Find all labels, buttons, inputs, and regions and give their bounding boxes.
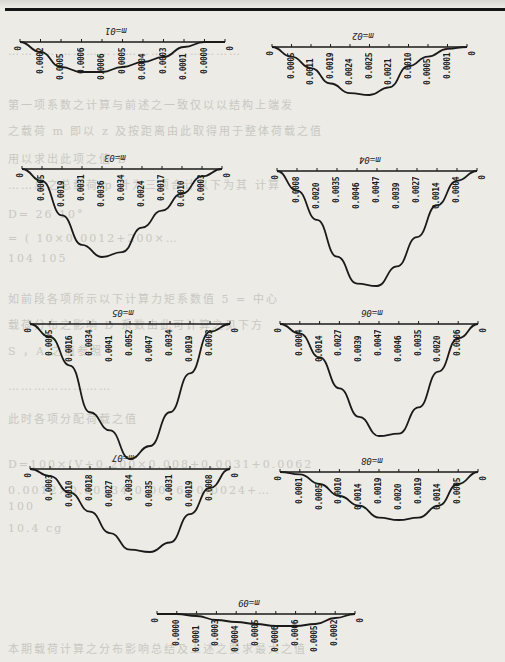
ordinate-value-label: 0.0005 [453, 478, 462, 504]
ordinate-value-label: 0.0003 [197, 175, 206, 201]
ordinate-value-label: 0.0019 [326, 53, 335, 79]
ordinate-value-label: 0.0010 [334, 478, 343, 504]
ordinate-value-label: 0.0035 [145, 481, 154, 507]
ordinate-value-label: 0.0014 [432, 183, 441, 209]
ordinate-value-label: 0.0021 [384, 59, 393, 85]
ordinate-value-label: 0.0000 [200, 48, 209, 74]
ordinate-value-label: 0.0005 [423, 59, 432, 85]
ordinate-value-label: 0.0027 [334, 330, 343, 356]
ordinate-value-label: 0.0019 [414, 478, 423, 504]
end-zero-label: 0 [229, 473, 238, 478]
ordinate-value-label: 0.0027 [105, 481, 114, 507]
ordinate-value-label: 0.0046 [394, 336, 403, 362]
ordinate-value-label: 0.0039 [392, 183, 401, 209]
ordinate-value-label: 0.0011 [306, 59, 315, 85]
ordinate-value-label: 0.0019 [185, 336, 194, 362]
ordinate-value-label: 0.0001 [295, 478, 304, 504]
ordinate-value-label: 0.0000 [172, 620, 181, 646]
end-zero-label: 0 [14, 173, 23, 178]
ordinate-value-label: 0.0006 [453, 330, 462, 356]
header-rule [5, 8, 505, 11]
ordinate-value-label: 0.0019 [374, 478, 383, 504]
ordinate-value-label: 0.0005 [287, 53, 296, 79]
influence-diagram-m-07: m=07000.00030.00100.00180.00270.00340.00… [30, 455, 230, 598]
influence-diagram-m-03: m=03000.00050.00190.00310.00360.00340.00… [22, 155, 222, 303]
ordinate-value-label: 0.0014 [354, 484, 363, 510]
ordinate-value-label: 0.0008 [292, 177, 301, 203]
ordinate-value-label: 0.0025 [365, 53, 374, 79]
ordinate-value-label: 0.0002 [330, 620, 339, 646]
ordinate-value-label: 0.0047 [372, 177, 381, 203]
ordinate-value-label: 0.0034 [125, 475, 134, 501]
ordinate-value-label: 0.0005 [56, 54, 65, 80]
ordinate-value-label: 0.0005 [251, 620, 260, 646]
ordinate-value-label: 0.0003 [159, 48, 168, 74]
ordinate-value-label: 0.0004 [231, 626, 240, 652]
ordinate-value-label: 0.0010 [65, 481, 74, 507]
scan-top-edge [0, 0, 505, 8]
ordinate-value-label: 0.0005 [37, 175, 46, 201]
ordinate-value-label: 0.0008 [205, 475, 214, 501]
end-zero-label: 0 [149, 618, 158, 623]
end-zero-label: 0 [354, 618, 363, 623]
ordinate-value-label: 0.0014 [315, 336, 324, 362]
end-zero-label: 0 [12, 46, 21, 51]
ordinate-value-label: 0.0004 [138, 54, 147, 80]
ordinate-value-label: 0.0014 [433, 484, 442, 510]
end-zero-label: 0 [272, 476, 281, 481]
ordinate-value-label: 0.0046 [352, 183, 361, 209]
end-zero-label: 0 [272, 328, 281, 333]
ordinate-value-label: 0.0004 [452, 177, 461, 203]
ordinate-value-label: 0.0019 [185, 481, 194, 507]
ordinate-value-label: 0.0052 [125, 330, 134, 356]
ordinate-value-label: 0.0006 [77, 48, 86, 74]
ordinate-value-label: 0.0004 [295, 330, 304, 356]
ordinate-value-label: 0.0034 [165, 330, 174, 356]
ordinate-value-label: 0.0041 [105, 336, 114, 362]
ordinate-value-label: 0.0018 [85, 475, 94, 501]
ordinate-value-label: 0.0003 [205, 330, 214, 356]
ordinate-value-label: 0.0002 [36, 48, 45, 74]
ordinate-value-label: 0.0024 [345, 59, 354, 85]
ordinate-value-label: 0.0034 [117, 175, 126, 201]
ordinate-value-label: 0.0005 [315, 484, 324, 510]
end-zero-label: 0 [264, 51, 273, 56]
ordinate-value-label: 0.0006 [97, 54, 106, 80]
end-zero-label: 0 [224, 46, 233, 51]
ordinate-value-label: 0.0020 [312, 183, 321, 209]
influence-diagram-m-09: m=09000.00000.00010.00030.00040.00050.00… [157, 600, 355, 662]
end-zero-label: 0 [477, 328, 486, 333]
ordinate-value-label: 0.0010 [404, 53, 413, 79]
ordinate-value-label: 0.0001 [192, 626, 201, 652]
end-zero-label: 0 [269, 175, 278, 180]
influence-diagram-m-01: m=01000.00020.00050.00060.00060.00050.00… [20, 28, 225, 118]
ordinate-value-label: 0.0027 [412, 177, 421, 203]
ordinate-value-label: 0.0005 [45, 330, 54, 356]
ordinate-value-label: 0.0010 [177, 181, 186, 207]
end-zero-label: 0 [221, 173, 230, 178]
end-zero-label: 0 [466, 51, 475, 56]
ordinate-value-label: 0.0039 [354, 336, 363, 362]
ordinate-value-label: 0.0034 [85, 330, 94, 356]
diagram-plot [30, 455, 230, 562]
influence-diagram-m-08: m=08000.00010.00050.00100.00140.00190.00… [280, 458, 478, 566]
ordinate-value-label: 0.0047 [145, 336, 154, 362]
influence-diagram-m-02: m=02000.00050.00110.00190.00240.00250.00… [272, 33, 467, 141]
end-zero-label: 0 [22, 328, 31, 333]
ordinate-value-label: 0.0006 [271, 626, 280, 652]
end-zero-label: 0 [477, 476, 486, 481]
ordinate-value-label: 0.0017 [157, 175, 166, 201]
diagram-plot [22, 155, 222, 267]
ordinate-value-label: 0.0006 [291, 620, 300, 646]
ordinate-value-label: 0.0031 [77, 175, 86, 201]
ordinate-value-label: 0.0036 [97, 181, 106, 207]
influence-diagram-m-04: m=04000.00080.00200.00350.00460.00470.00… [277, 157, 477, 332]
ordinate-value-label: 0.0019 [57, 181, 66, 207]
ordinate-value-label: 0.0001 [443, 53, 452, 79]
scanned-book-page: ………………………………………………第一项系数之计算与前述之一致仅以以结构上端发… [0, 0, 505, 662]
ordinate-value-label: 0.0016 [65, 336, 74, 362]
ordinate-value-label: 0.0020 [394, 484, 403, 510]
ordinate-value-label: 0.0003 [45, 475, 54, 501]
ordinate-value-label: 0.0003 [211, 620, 220, 646]
end-zero-label: 0 [229, 328, 238, 333]
